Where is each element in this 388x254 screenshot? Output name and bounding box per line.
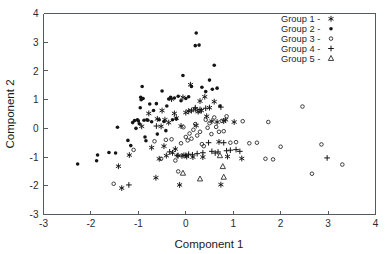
data-point-marker: [164, 129, 168, 133]
x-tick-label: 4: [373, 218, 379, 229]
data-point-marker: [153, 139, 157, 143]
data-point-marker: [229, 141, 233, 145]
y-tick-label: -1: [30, 152, 39, 163]
data-point-marker: [216, 139, 221, 145]
data-point-marker: [217, 130, 221, 134]
data-point-marker: [222, 129, 226, 133]
data-point-marker: [112, 182, 116, 186]
data-point-marker: [177, 182, 182, 188]
data-point-marker: [234, 140, 238, 144]
data-point-marker: [143, 135, 147, 139]
data-point-marker: [208, 121, 212, 125]
data-point-marker: [150, 120, 154, 124]
data-point-marker: [329, 37, 333, 41]
data-point-marker: [171, 118, 175, 122]
data-point-marker: [76, 162, 80, 166]
x-axis-title: Component 1: [174, 238, 243, 250]
data-point-marker: [225, 154, 230, 160]
data-point-marker: [174, 159, 178, 163]
data-point-marker: [138, 122, 142, 126]
data-point-marker: [129, 144, 133, 148]
data-point-marker: [141, 97, 145, 101]
data-point-marker: [210, 132, 214, 136]
data-point-marker: [221, 174, 226, 179]
data-point-marker: [328, 55, 333, 60]
data-point-marker: [173, 96, 177, 100]
data-point-marker: [204, 118, 208, 122]
data-point-marker: [154, 123, 160, 129]
data-point-marker: [190, 85, 194, 89]
data-point-marker: [170, 150, 175, 156]
data-point-marker: [214, 125, 218, 129]
data-point-marker: [119, 185, 124, 191]
legend-label-1: Group 1 -: [281, 14, 320, 24]
data-point-marker: [225, 115, 229, 119]
data-point-marker: [161, 143, 166, 149]
data-point-marker: [207, 105, 212, 111]
y-axis-title: Component 2: [4, 79, 16, 148]
data-point-marker: [176, 170, 180, 174]
data-point-marker: [271, 158, 275, 162]
data-point-marker: [328, 46, 334, 52]
data-point-marker: [149, 145, 154, 151]
data-point-marker: [224, 148, 230, 154]
data-point-marker: [204, 90, 208, 94]
data-point-marker: [162, 120, 166, 124]
data-point-marker: [198, 130, 202, 134]
data-point-marker: [96, 153, 100, 157]
data-point-marker: [187, 95, 191, 99]
data-point-marker: [140, 85, 144, 89]
x-tick-label: 0: [183, 218, 189, 229]
data-point-marker: [215, 119, 220, 125]
data-point-marker: [232, 119, 237, 125]
data-point-marker: [279, 145, 283, 149]
data-point-marker: [148, 102, 152, 106]
data-point-marker: [159, 123, 164, 129]
data-point-marker: [200, 150, 206, 156]
data-point-marker: [267, 120, 271, 124]
data-point-marker: [188, 132, 192, 136]
y-tick-label: 1: [33, 94, 39, 105]
data-point-marker: [206, 126, 210, 130]
data-point-marker: [152, 109, 156, 113]
data-point-marker: [116, 163, 121, 169]
legend-label-2: Group 2 -: [281, 24, 320, 34]
data-point-marker: [146, 111, 151, 117]
data-point-marker: [160, 108, 165, 114]
data-point-marker: [127, 152, 132, 158]
data-point-marker: [195, 134, 199, 138]
data-point-marker: [179, 141, 183, 145]
data-point-marker: [241, 119, 245, 123]
data-point-marker: [215, 149, 221, 155]
data-point-marker: [301, 105, 305, 109]
data-point-marker: [181, 74, 185, 78]
data-point-marker: [324, 155, 330, 161]
y-tick-label: 4: [33, 8, 39, 19]
data-point-marker: [176, 94, 180, 98]
data-point-marker: [212, 116, 216, 120]
data-point-marker: [212, 99, 217, 105]
data-point-marker: [310, 172, 314, 176]
data-point-marker: [155, 102, 159, 106]
data-point-marker: [255, 141, 259, 145]
chart-legend: Group 1 -Group 2 -Group 3 -Group 4 -Grou…: [281, 14, 334, 64]
data-point-marker: [175, 117, 179, 121]
data-point-marker: [197, 98, 202, 104]
data-point-marker: [320, 143, 324, 147]
data-point-marker: [192, 128, 196, 132]
data-point-marker: [212, 63, 216, 67]
data-point-marker: [153, 175, 158, 181]
legend-label-3: Group 3 -: [281, 34, 320, 44]
scatter-plot-figure: -3-2-101234-3-2-101234 Group 1 -Group 2 …: [0, 0, 388, 254]
data-point-marker: [329, 27, 333, 31]
data-point-marker: [132, 148, 136, 152]
data-point-marker: [184, 135, 188, 139]
data-point-marker: [264, 157, 268, 161]
data-point-marker: [190, 137, 194, 141]
data-point-marker: [179, 123, 184, 129]
data-point-marker: [138, 106, 142, 110]
series-group-3: [112, 105, 344, 186]
data-point-marker: [194, 31, 198, 35]
data-point-marker: [167, 149, 173, 155]
x-tick-label: 2: [278, 218, 284, 229]
